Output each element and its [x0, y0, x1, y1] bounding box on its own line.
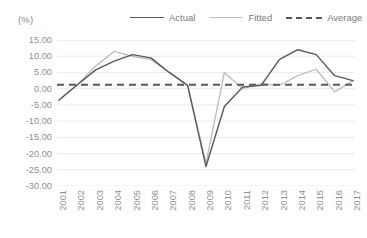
y-axis-tick: 5.00 [34, 67, 52, 77]
plot-svg [57, 40, 355, 186]
y-axis-tick: -10.00 [26, 116, 52, 126]
legend-label-fitted: Fitted [248, 13, 272, 23]
y-axis-tick: -5.00 [31, 100, 52, 110]
x-axis-tick: 2006 [151, 190, 160, 211]
chart-legend: Actual Fitted Average [130, 13, 362, 23]
x-axis-tick: 2009 [206, 190, 215, 211]
x-axis-tick: 2007 [169, 190, 178, 211]
x-axis-tick: 2012 [261, 190, 270, 211]
legend-line-actual-icon [130, 17, 164, 18]
x-axis-tick: 2002 [77, 190, 86, 211]
x-axis-tick: 2017 [353, 190, 362, 211]
legend-line-average-icon [286, 17, 322, 19]
legend-item-fitted[interactable]: Fitted [209, 13, 272, 23]
legend-item-average[interactable]: Average [286, 13, 362, 23]
y-axis-tick: -30.00 [26, 181, 52, 191]
y-axis-tick: -25.00 [26, 165, 52, 175]
legend-line-fitted-icon [209, 17, 243, 18]
y-axis-tick: 10.00 [29, 51, 52, 61]
line-chart: (%) Actual Fitted Average 15.0010.005.00… [0, 0, 367, 238]
plot-area [57, 40, 355, 186]
y-axis-tick: -15.00 [26, 132, 52, 142]
x-axis-tick: 2016 [335, 190, 344, 211]
legend-label-average: Average [327, 13, 362, 23]
y-axis-tick: 0.00 [34, 84, 52, 94]
x-axis-tick: 2014 [298, 190, 307, 211]
x-axis-tick: 2004 [114, 190, 123, 211]
legend-label-actual: Actual [169, 13, 195, 23]
x-axis-tick: 2013 [280, 190, 289, 211]
x-axis-tick-labels: 2001200220032004200520062007200820092010… [57, 188, 355, 238]
series-line-actual [59, 50, 353, 167]
x-axis-tick: 2011 [243, 190, 252, 210]
series-line-fitted [59, 51, 353, 163]
x-axis-tick: 2010 [224, 190, 233, 211]
x-axis-tick: 2008 [188, 190, 197, 211]
y-axis-tick: 15.00 [29, 35, 52, 45]
x-axis-tick: 2015 [316, 190, 325, 211]
y-axis-tick: -20.00 [26, 149, 52, 159]
y-axis-tick-labels: 15.0010.005.000.00-5.00-10.00-15.00-20.0… [0, 0, 57, 238]
x-axis-tick: 2005 [133, 190, 142, 211]
x-axis-tick: 2001 [59, 190, 68, 211]
legend-item-actual[interactable]: Actual [130, 13, 195, 23]
x-axis-tick: 2003 [96, 190, 105, 211]
